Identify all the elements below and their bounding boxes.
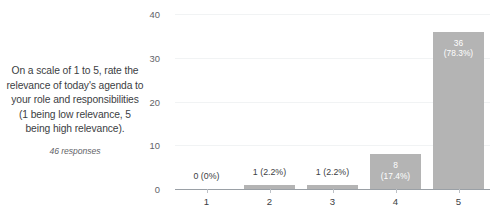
bar-3[interactable]: [307, 185, 357, 189]
x-tick-5: [459, 189, 460, 193]
responses-count-label: 46 responses: [50, 146, 101, 156]
plot-area: 0 (0%) 1 (2.2%) 1 (2.2%) 8 (17.4%): [175, 14, 490, 189]
x-axis-label-1: 1: [177, 196, 237, 207]
x-tick-3: [333, 189, 334, 193]
bar-slot-4[interactable]: 8 (17.4%): [370, 14, 420, 189]
x-tick-4: [396, 189, 397, 193]
x-tick-1: [207, 189, 208, 193]
bar-label-5: 36 (78.3%): [433, 38, 483, 59]
x-axis-label-5: 5: [429, 196, 489, 207]
bar-slot-1[interactable]: 0 (0%): [181, 14, 231, 189]
question-title: On a scale of 1 to 5, rate the relevance…: [6, 64, 144, 137]
x-tick-2: [270, 189, 271, 193]
x-axis-label-3: 3: [303, 196, 363, 207]
bar-5[interactable]: 36 (78.3%): [433, 32, 483, 190]
y-axis-tick-10: 10: [126, 140, 160, 151]
bar-slot-5[interactable]: 36 (78.3%): [433, 14, 483, 189]
bar-2[interactable]: [244, 185, 294, 189]
y-axis-tick-0: 0: [126, 184, 160, 195]
y-axis-tick-30: 30: [126, 52, 160, 63]
bar-4[interactable]: 8 (17.4%): [370, 154, 420, 189]
x-axis-label-2: 2: [240, 196, 300, 207]
bar-slot-3[interactable]: 1 (2.2%): [307, 14, 357, 189]
bar-label-4: 8 (17.4%): [370, 160, 420, 181]
bar-slot-2[interactable]: 1 (2.2%): [244, 14, 294, 189]
bar-chart: 40 30 20 10 0 0 (0%): [150, 0, 498, 220]
bar-label-3: 1 (2.2%): [289, 167, 375, 177]
x-axis-label-4: 4: [366, 196, 426, 207]
y-axis-tick-40: 40: [126, 9, 160, 20]
survey-result-card: On a scale of 1 to 5, rate the relevance…: [0, 0, 498, 220]
y-axis-tick-20: 20: [126, 96, 160, 107]
